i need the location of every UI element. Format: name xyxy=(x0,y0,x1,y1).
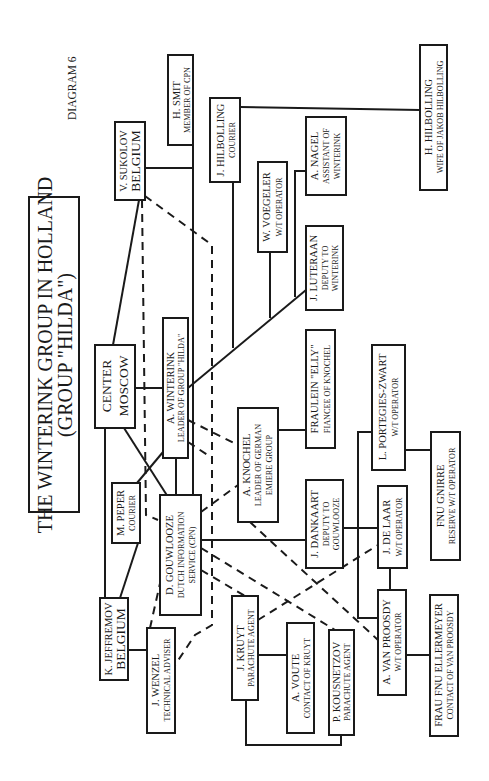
node-voute: A. VOUTE CONTACT OF KRUYT xyxy=(287,623,314,733)
knochel-role-2: EMIERE GROUP xyxy=(265,434,274,495)
voegeler-name: W. VOEGELER xyxy=(261,172,272,241)
voute-role: CONTACT OF KRUYT xyxy=(303,638,312,719)
node-kruyt: J. KRUYT PARACHUTE AGENT xyxy=(232,596,258,700)
center-name: CENTER xyxy=(99,360,114,413)
delaar-role: W/T OPERATOR xyxy=(395,497,404,557)
node-jeffremov: K. JEFFREMOV BELGIUM xyxy=(100,598,128,680)
vanproosdy-name: A. VAN PROOSDY xyxy=(381,599,392,685)
title-line-2: (GROUP "HILDA") xyxy=(54,273,77,437)
voegeler-role: W/T OPERATOR xyxy=(275,177,284,237)
peper-name: M. PEPER xyxy=(115,490,126,536)
ellermeyer-name: FRAU FNU ELLERMEYER xyxy=(433,603,444,727)
dash-gouwlooze-knochel xyxy=(201,485,238,512)
line-peper-jeffremov xyxy=(120,543,138,598)
elly-name: FRAULEIN "ELLY" xyxy=(309,345,320,434)
kousnetzov-name: P. KOUSNETZOV xyxy=(331,641,342,722)
diagram-number: DIAGRAM 6 xyxy=(66,56,78,120)
kruyt-role: PARACHUTE AGENT xyxy=(247,609,256,687)
nagel-role-2: WINTERINK xyxy=(333,133,342,179)
line-jhilbolling-hhilbolling xyxy=(240,107,420,110)
node-center: CENTER MOSCOW xyxy=(95,345,135,428)
dankaart-role-1: DEPUTY TO xyxy=(322,502,331,547)
line-winterink-peper xyxy=(137,452,163,483)
smit-name: H. SMIT xyxy=(171,80,182,119)
dankaart-role-2: GOUWLOOZE xyxy=(332,498,341,550)
h-hilbolling-name: H. HILBOLLING xyxy=(423,78,434,155)
kruyt-name: J. KRUYT xyxy=(235,625,246,671)
kousnetzov-role: PARACHUTE AGENT xyxy=(343,643,352,721)
node-sukolov: V. SUKOLOV BELGIUM xyxy=(115,122,145,200)
line-nagel-diagonal xyxy=(295,171,306,297)
nagel-name: A. NAGEL xyxy=(309,132,320,180)
smit-role: MEMBER OF CPN xyxy=(183,67,192,133)
sukolov-role: BELGIUM xyxy=(128,130,143,192)
node-nagel: A. NAGEL ASSISTANT OF WINTERINK xyxy=(306,117,346,195)
center-role: MOSCOW xyxy=(116,355,131,416)
node-knochel: A. KNOCHEL LEADER OF GERMAN EMIERE GROUP xyxy=(238,408,278,522)
winterink-role: LEADER OF GROUP "HILDA" xyxy=(177,334,186,443)
portegies-name: L. PORTEGIES-ZWART xyxy=(377,353,388,460)
gnirre-name: FNU GNIRRE xyxy=(435,465,446,528)
ellermeyer-role: CONTACT OF VAN PROOSDY xyxy=(446,610,455,719)
gnirre-role: RESERVE W/T OPERATOR xyxy=(448,447,457,544)
node-smit: H. SMIT MEMBER OF CPN xyxy=(168,55,193,145)
line-winterink-luteraan xyxy=(188,290,306,388)
node-vanproosdy: A. VAN PROOSDY W/T OPERATOR xyxy=(378,590,406,695)
node-peper: M. PEPER COURIER xyxy=(112,483,140,543)
winterink-name: A. WINTERINK xyxy=(165,352,176,425)
diagram-number-label: DIAGRAM 6 xyxy=(66,56,78,120)
line-sukolov-center xyxy=(113,200,139,345)
node-voegeler: W. VOEGELER W/T OPERATOR xyxy=(258,162,287,252)
luteraan-name: J. LUTERAAN xyxy=(308,235,319,301)
node-h-hilbolling: H. HILBOLLING WIFE OF JAKOB HILBOLLING xyxy=(420,45,447,190)
title-box: THE WINTERINK GROUP IN HOLLAND (GROUP "H… xyxy=(29,177,79,534)
gouwlooze-name: D. GOUWLOOZE xyxy=(164,515,175,595)
node-kousnetzov: P. KOUSNETZOV PARACHUTE AGENT xyxy=(329,630,354,735)
j-hilbolling-name: J. HILBOLLING xyxy=(215,103,226,176)
node-gnirre: FNU GNIRRE RESERVE W/T OPERATOR xyxy=(431,432,460,560)
node-j-hilbolling: J. HILBOLLING COURIER xyxy=(210,98,240,182)
delaar-name: J. DE LAAR xyxy=(381,500,392,555)
knochel-name: A. KNOCHEL xyxy=(241,434,252,497)
h-hilbolling-role: WIFE OF JAKOB HILBOLLING xyxy=(436,61,445,174)
j-hilbolling-role: COURIER xyxy=(228,121,237,157)
node-winterink: A. WINTERINK LEADER OF GROUP "HILDA" xyxy=(163,318,188,458)
luteraan-role-1: DEPUTY TO xyxy=(321,246,330,291)
node-delaar: J. DE LAAR W/T OPERATOR xyxy=(378,486,407,568)
luteraan-role-2: WINTERINK xyxy=(331,245,340,291)
knochel-role-1: LEADER OF GERMAN xyxy=(254,424,263,506)
dash-winterink-vertical xyxy=(188,442,212,458)
gouwlooze-role-1: DUTCH INFORMATION xyxy=(177,512,186,599)
organization-diagram: DIAGRAM 6 THE WINTERINK GROUP IN HOLLAND… xyxy=(0,0,489,781)
dash-gouwlooze-kruyt xyxy=(201,570,245,596)
portegies-role: W/T OPERATOR xyxy=(391,377,400,437)
gouwlooze-role-2: SERVICE (CPN) xyxy=(188,526,197,583)
wenzel-name: J. WENZEL xyxy=(150,654,161,706)
title-line-1: THE WINTERINK GROUP IN HOLLAND xyxy=(34,177,56,534)
nagel-role-1: ASSISTANT OF xyxy=(322,128,331,184)
node-ellermeyer: FRAU FNU ELLERMEYER CONTACT OF VAN PROOS… xyxy=(430,595,458,736)
peper-role: COURIER xyxy=(128,494,137,530)
jeffremov-role: BELGIUM xyxy=(113,608,128,670)
wenzel-role: TECHNICAL ADVISER xyxy=(163,638,172,722)
node-dankaart: J. DANKAART DEPUTY TO GOUWLOOZE xyxy=(306,480,343,568)
node-gouwlooze: D. GOUWLOOZE DUTCH INFORMATION SERVICE (… xyxy=(160,495,201,615)
voute-name: A. VOUTE xyxy=(290,654,301,702)
elly-role: FIANCEE OF KNOCHEL xyxy=(323,345,332,433)
dash-sukolov-gouwlooze xyxy=(142,200,158,520)
node-portegies: L. PORTEGIES-ZWART W/T OPERATOR xyxy=(372,345,405,470)
node-elly: FRAULEIN "ELLY" FIANCEE OF KNOCHEL xyxy=(306,330,335,448)
node-luteraan: J. LUTERAAN DEPUTY TO WINTERINK xyxy=(306,226,343,310)
dankaart-name: J. DANKAART xyxy=(309,490,320,558)
node-wenzel: J. WENZEL TECHNICAL ADVISER xyxy=(147,628,175,733)
vanproosdy-role: W/T OPERATOR xyxy=(394,612,403,672)
